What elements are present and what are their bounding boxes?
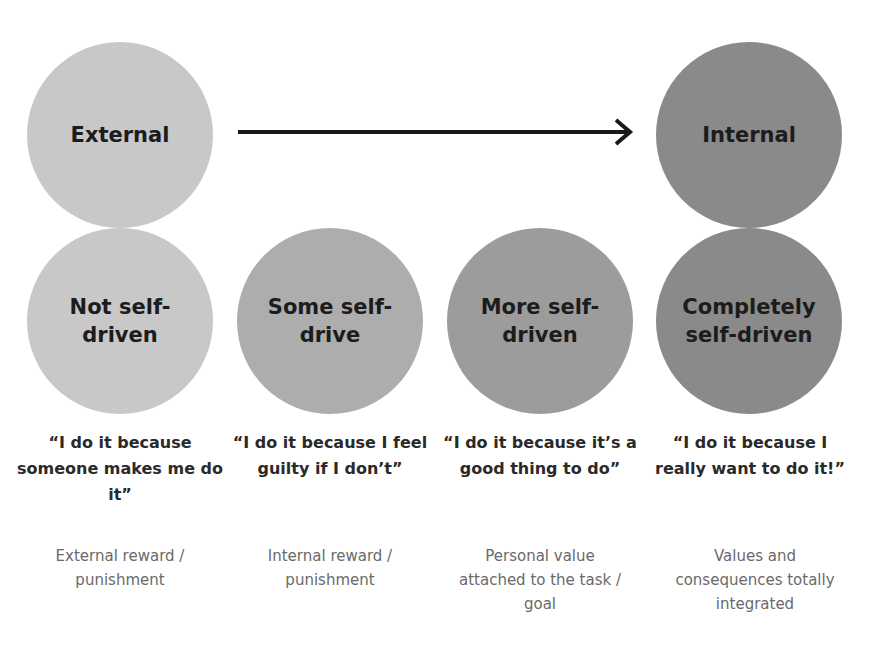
stage-circle-more-self-driven: More self-driven (447, 228, 633, 414)
stage-label-line2: self-driven (686, 323, 813, 347)
internal-label: Internal (702, 121, 796, 149)
right-arrow-icon (236, 112, 636, 152)
stage-label-line1: Not self- (70, 295, 171, 319)
external-circle: External (27, 42, 213, 228)
stage-label-line2: driven (82, 323, 157, 347)
stage-quote: “I do it because I really want to do it!… (650, 430, 850, 482)
stage-description: Personal value attached to the task / go… (455, 544, 625, 616)
stage-circle-not-self-driven: Not self-driven (27, 228, 213, 414)
stage-circle-some-self-drive: Some self-drive (237, 228, 423, 414)
external-label: External (71, 121, 170, 149)
internal-circle: Internal (656, 42, 842, 228)
stage-description: External reward / punishment (25, 544, 215, 592)
stage-label-line1: More self- (481, 295, 600, 319)
stage-description: Internal reward / punishment (235, 544, 425, 592)
stage-label-line1: Some self- (268, 295, 392, 319)
stage-quote: “I do it because someone makes me do it” (15, 430, 225, 508)
stage-circle-completely-self-driven: Completelyself-driven (656, 228, 842, 414)
stage-description: Values and consequences totally integrat… (660, 544, 850, 616)
stage-label-line1: Completely (682, 295, 815, 319)
stage-quote: “I do it because it’s a good thing to do… (440, 430, 640, 482)
stage-quote: “I do it because I feel guilty if I don’… (230, 430, 430, 482)
stage-label-line2: drive (300, 323, 361, 347)
stage-label-line2: driven (502, 323, 577, 347)
